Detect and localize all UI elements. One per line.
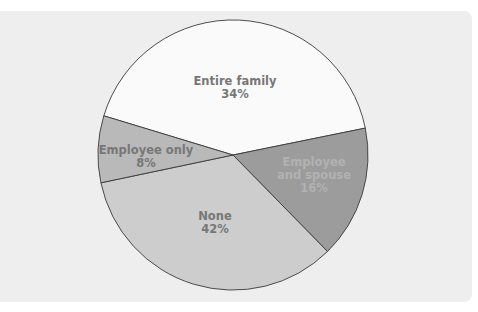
label-entire-family-pct: 34%: [193, 88, 276, 101]
label-none: None 42%: [198, 210, 232, 236]
label-employee-only: Employee only 8%: [99, 144, 194, 170]
label-entire-family: Entire family 34%: [193, 75, 276, 101]
label-employee-and-spouse: Employee and spouse 16%: [277, 156, 351, 195]
pie-chart: [0, 0, 478, 312]
label-employee-only-pct: 8%: [99, 157, 194, 170]
label-none-pct: 42%: [198, 223, 232, 236]
label-employee-and-spouse-pct: 16%: [277, 182, 351, 195]
